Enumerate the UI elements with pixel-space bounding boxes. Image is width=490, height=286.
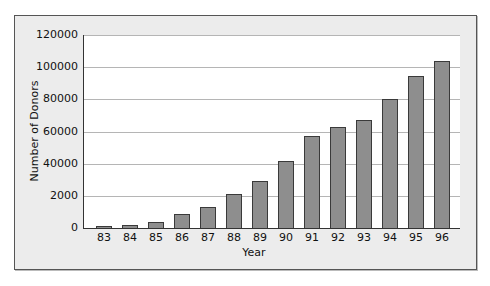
bar-96 [434,61,450,228]
x-tick-label: 93 [351,232,377,244]
gridline [84,67,460,68]
x-tick-label: 87 [195,232,221,244]
bar-91 [304,136,320,228]
y-axis-line [83,35,84,229]
x-tick-label: 85 [143,232,169,244]
x-tick-label: 83 [91,232,117,244]
bar-87 [200,207,216,228]
x-tick-label: 95 [403,232,429,244]
y-tick-label: 100000 [22,61,78,73]
gridline [84,196,460,197]
x-tick-label: 92 [325,232,351,244]
y-tick-label: 2000 [22,190,78,202]
bar-90 [278,161,294,228]
bar-88 [226,194,242,228]
x-axis-label: Year [234,246,274,259]
gridline [84,164,460,165]
bar-94 [382,99,398,228]
y-tick-label: 0 [22,222,78,234]
bar-89 [252,181,268,228]
bar-92 [330,127,346,228]
x-tick-label: 84 [117,232,143,244]
gridline [84,35,460,36]
x-tick-label: 89 [247,232,273,244]
x-axis-line [83,228,460,229]
x-tick-label: 96 [429,232,455,244]
bar-93 [356,120,372,228]
x-tick-label: 86 [169,232,195,244]
x-tick-label: 88 [221,232,247,244]
x-tick-label: 94 [377,232,403,244]
bar-86 [174,214,190,228]
x-tick-label: 91 [299,232,325,244]
y-axis-label: Number of Donors [28,81,41,182]
gridline [84,132,460,133]
bar-95 [408,76,424,228]
gridline [84,99,460,100]
y-tick-label: 120000 [22,29,78,41]
x-tick-label: 90 [273,232,299,244]
